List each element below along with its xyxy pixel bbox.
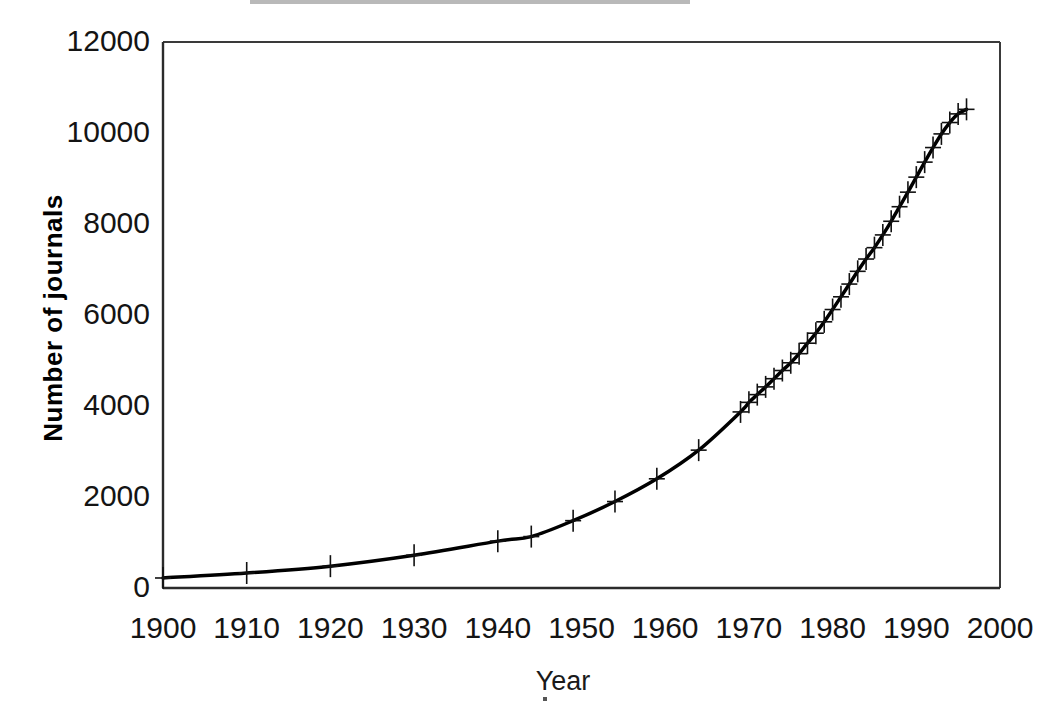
y-tick-label: 2000 <box>50 481 150 511</box>
data-point-marker <box>607 491 623 513</box>
chart-container: 020004000600080001000012000 190019101920… <box>0 0 1047 724</box>
data-point-markers <box>155 98 975 589</box>
data-point-marker <box>490 530 506 552</box>
y-tick-label: 12000 <box>50 26 150 56</box>
data-point-marker <box>322 555 338 577</box>
scan-artifact-dot <box>543 697 547 701</box>
scan-artifact-smudge <box>250 0 690 4</box>
y-tick-label: 10000 <box>50 117 150 147</box>
axis-frame <box>163 42 1000 588</box>
y-tick-label: 0 <box>50 572 150 602</box>
data-point-marker <box>406 544 422 566</box>
data-point-marker <box>959 98 975 120</box>
data-point-marker <box>565 510 581 532</box>
data-point-marker <box>155 567 171 589</box>
y-axis-title: Number of journals <box>38 168 69 468</box>
x-axis-tick-labels: 1900191019201930194019501960197019801990… <box>0 612 1047 652</box>
data-point-marker <box>691 439 707 461</box>
x-tick-label: 2000 <box>940 612 1047 644</box>
data-series-line <box>163 109 967 578</box>
data-point-marker <box>523 526 539 548</box>
data-point-marker <box>649 468 665 490</box>
x-axis-title: Year <box>463 666 663 697</box>
data-point-marker <box>239 562 255 584</box>
